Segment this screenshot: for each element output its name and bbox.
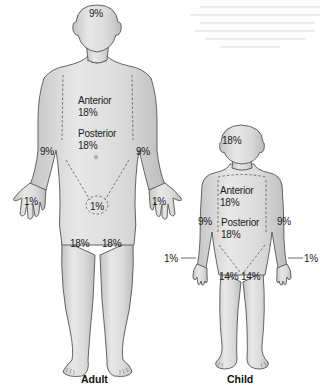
child-trunk-anterior-percent: 18%: [220, 197, 239, 208]
adult-head-percent: 9%: [89, 8, 103, 19]
adult-figure: [14, 5, 182, 377]
child-caption: Child: [227, 373, 253, 385]
child-left-hand-percent: 1%: [164, 253, 178, 264]
adult-right-arm-percent: 9%: [136, 146, 150, 157]
adult-caption: Adult: [81, 373, 108, 385]
child-left-arm-percent: 9%: [198, 216, 212, 227]
child-right-arm-percent: 9%: [277, 216, 291, 227]
child-figure: [193, 125, 291, 369]
child-trunk-anterior-label: Anterior: [220, 185, 253, 196]
child-left-leg-percent: 14%: [219, 271, 238, 282]
body-figures: [0, 0, 328, 387]
adult-right-leg-percent: 18%: [102, 238, 121, 249]
adult-perineum-percent: 1%: [90, 201, 104, 212]
adult-trunk-anterior-percent: 18%: [78, 107, 97, 118]
adult-left-hand-percent: 1%: [24, 196, 38, 207]
child-trunk-posterior-label: Posterior: [221, 217, 259, 228]
rule-of-nines-diagram: 9% Anterior 18% Posterior 18% 9% 9% 1% 1…: [0, 0, 328, 387]
child-trunk-posterior-percent: 18%: [221, 229, 240, 240]
adult-left-leg-percent: 18%: [70, 238, 89, 249]
adult-right-hand-percent: 1%: [152, 196, 166, 207]
child-right-leg-percent: 14%: [241, 271, 260, 282]
adult-left-arm-percent: 9%: [40, 146, 54, 157]
adult-trunk-posterior-percent: 18%: [78, 140, 97, 151]
child-right-hand-percent: 1%: [304, 253, 318, 264]
child-head-percent: 18%: [222, 135, 241, 146]
adult-trunk-anterior-label: Anterior: [78, 95, 111, 106]
adult-trunk-posterior-label: Posterior: [78, 128, 116, 139]
